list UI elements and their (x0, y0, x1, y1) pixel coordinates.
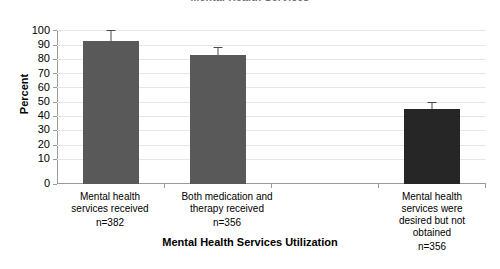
bar-slot-3-empty (271, 30, 378, 184)
bar-series (57, 30, 486, 184)
bar-slot-2 (164, 30, 271, 184)
plot-area (57, 30, 486, 184)
category-1-sample-size: n=382 (50, 217, 170, 229)
error-bar-4 (428, 102, 437, 109)
category-label-1-line2: services received (71, 203, 148, 214)
chart-title: Mental Health Services (0, 0, 500, 3)
error-bar-1 (106, 30, 115, 41)
bar-slot-1 (57, 30, 164, 184)
x-axis-title: Mental Health Services Utilization (0, 236, 500, 248)
y-tick-label-80: 80 (16, 53, 50, 64)
category-label-2-line2: therapy received (190, 203, 264, 214)
category-label-1-line1: Mental health (80, 191, 140, 202)
category-label-2-line1: Both medication and (181, 191, 272, 202)
y-tick-label-50: 50 (16, 96, 50, 107)
x-tick-3 (378, 184, 379, 188)
x-tick-4 (485, 184, 486, 188)
chart-canvas: Mental Health Services Percent 100 90 80… (0, 0, 500, 269)
category-label-1: Mental health services received n=382 (50, 191, 170, 229)
bar-mental-health-services-desired-not-obtained[interactable] (404, 109, 460, 184)
y-tick-mark-0 (53, 184, 57, 185)
error-bar-2 (213, 47, 222, 55)
bar-both-medication-and-therapy-received[interactable] (190, 55, 246, 184)
y-tick-label-0: 0 (16, 178, 50, 189)
category-label-2: Both medication and therapy received n=3… (162, 191, 292, 229)
y-tick-label-30: 30 (16, 124, 50, 135)
y-tick-label-40: 40 (16, 110, 50, 121)
bar-slot-4 (378, 30, 486, 184)
x-tick-1 (164, 184, 165, 188)
y-tick-label-20: 20 (16, 139, 50, 150)
category-label-3-line2: services were (401, 203, 462, 214)
category-2-sample-size: n=356 (162, 217, 292, 229)
x-tick-2 (271, 184, 272, 188)
category-label-3-line1: Mental health (402, 191, 462, 202)
category-label-3-line3: desired but not (399, 215, 465, 226)
bar-mental-health-services-received[interactable] (83, 41, 139, 184)
y-tick-label-100: 100 (16, 25, 50, 36)
y-tick-label-70: 70 (16, 68, 50, 79)
y-tick-label-90: 90 (16, 39, 50, 50)
y-tick-label-60: 60 (16, 82, 50, 93)
y-tick-label-10: 10 (16, 153, 50, 164)
